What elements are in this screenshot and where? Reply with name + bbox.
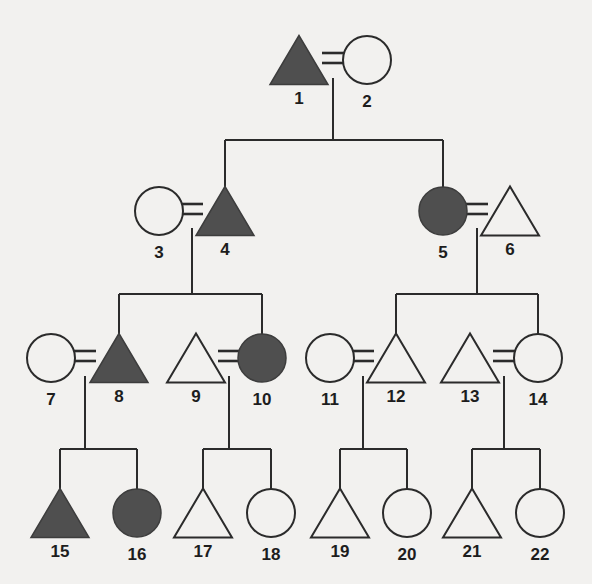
- individual-symbol-20-female-unaffected[interactable]: [383, 489, 431, 537]
- individual-label-4: 4: [220, 240, 230, 259]
- individual-label-9: 9: [191, 387, 200, 406]
- individual-label-22: 22: [531, 545, 550, 564]
- individual-symbol-14-female-unaffected[interactable]: [514, 334, 562, 382]
- individual-label-2: 2: [362, 92, 371, 111]
- individual-symbol-19-male-unaffected[interactable]: [311, 489, 369, 538]
- mating-symbol-m7-8: [74, 351, 96, 361]
- individual-symbol-1-male-affected[interactable]: [270, 36, 328, 85]
- individual-symbol-8-male-affected[interactable]: [90, 334, 148, 383]
- individual-symbol-7-female-unaffected[interactable]: [27, 334, 75, 382]
- individual-symbol-4-male-affected[interactable]: [196, 187, 254, 236]
- individual-label-14: 14: [529, 390, 548, 409]
- individual-label-8: 8: [114, 387, 123, 406]
- individual-symbol-21-male-unaffected[interactable]: [443, 489, 501, 538]
- individual-label-16: 16: [128, 545, 147, 564]
- individual-symbol-22-female-unaffected[interactable]: [516, 489, 564, 537]
- individual-label-7: 7: [46, 390, 55, 409]
- individual-label-20: 20: [398, 545, 417, 564]
- individual-symbol-12-male-unaffected[interactable]: [367, 334, 425, 383]
- individual-label-5: 5: [438, 243, 447, 262]
- individual-symbols-layer: [27, 36, 564, 538]
- individual-label-21: 21: [463, 542, 482, 561]
- individual-symbol-13-male-unaffected[interactable]: [441, 334, 499, 383]
- pedigree-chart: 12345678910111213141516171819202122: [0, 0, 592, 584]
- individual-label-17: 17: [194, 542, 213, 561]
- mating-symbol-m13-14: [493, 351, 515, 361]
- mating-symbol-m5-6: [466, 204, 488, 214]
- descent-lines-layer: [60, 78, 540, 497]
- mating-symbol-m3-4: [181, 204, 203, 214]
- individual-symbol-5-female-affected[interactable]: [419, 187, 467, 235]
- individual-label-19: 19: [331, 542, 350, 561]
- individual-label-15: 15: [51, 542, 70, 561]
- mating-symbol-m1-2: [322, 53, 344, 63]
- individual-label-13: 13: [461, 387, 480, 406]
- individual-label-6: 6: [505, 240, 514, 259]
- individual-symbol-2-female-unaffected[interactable]: [343, 36, 391, 84]
- individual-symbol-16-female-affected[interactable]: [113, 489, 161, 537]
- mating-symbol-m11-12: [352, 351, 374, 361]
- individual-symbol-17-male-unaffected[interactable]: [174, 489, 232, 538]
- individual-symbol-10-female-affected[interactable]: [238, 334, 286, 382]
- individual-label-10: 10: [253, 390, 272, 409]
- individual-symbol-9-male-unaffected[interactable]: [167, 334, 225, 383]
- individual-symbol-3-female-unaffected[interactable]: [135, 187, 183, 235]
- individual-symbol-11-female-unaffected[interactable]: [306, 334, 354, 382]
- individual-label-12: 12: [387, 387, 406, 406]
- individual-label-11: 11: [321, 390, 339, 409]
- mating-symbol-m9-10: [218, 351, 240, 361]
- individual-label-3: 3: [154, 243, 163, 262]
- individual-label-18: 18: [262, 545, 281, 564]
- individual-label-1: 1: [294, 89, 303, 108]
- individual-symbol-15-male-affected[interactable]: [31, 489, 89, 538]
- pedigree-diagram: 12345678910111213141516171819202122: [0, 0, 592, 584]
- individual-symbol-6-male-unaffected[interactable]: [481, 187, 539, 236]
- individual-symbol-18-female-unaffected[interactable]: [247, 489, 295, 537]
